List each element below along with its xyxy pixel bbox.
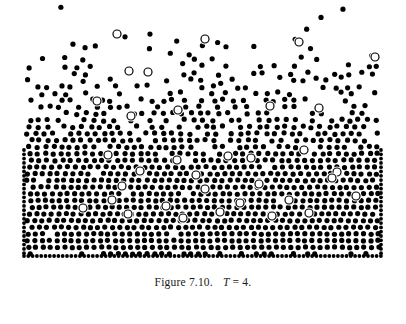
- fluid-particle: [266, 232, 271, 237]
- fluid-particle: [323, 191, 328, 196]
- fluid-particle: [194, 138, 199, 143]
- fluid-particle: [76, 178, 81, 183]
- fluid-particle: [104, 164, 109, 169]
- fluid-particle: [107, 211, 112, 216]
- fluid-particle: [358, 145, 363, 150]
- fluid-particle: [278, 225, 283, 230]
- fluid-particle: [251, 44, 256, 49]
- fluid-particle: [186, 245, 191, 250]
- wall-particle: [345, 254, 349, 258]
- wall-particle: [22, 161, 26, 165]
- fluid-particle: [176, 191, 181, 196]
- fluid-particle: [76, 185, 81, 190]
- fluid-particle: [193, 231, 198, 236]
- fluid-particle: [266, 118, 271, 123]
- fluid-particle: [279, 191, 284, 196]
- fluid-particle: [249, 225, 254, 230]
- fluid-particle: [318, 144, 323, 149]
- fluid-particle: [373, 225, 378, 230]
- fluid-particle: [211, 83, 216, 88]
- fluid-particle: [120, 238, 125, 243]
- fluid-particle: [36, 117, 41, 122]
- fluid-particle: [164, 231, 169, 236]
- fluid-particle: [357, 164, 362, 169]
- fluid-particle: [347, 119, 352, 124]
- fluid-particle: [161, 99, 166, 104]
- fluid-particle: [223, 44, 228, 49]
- fluid-particle: [317, 124, 322, 129]
- fluid-particle: [347, 245, 352, 250]
- fluid-particle: [240, 151, 245, 156]
- fluid-particle: [136, 212, 141, 217]
- fluid-particle: [106, 244, 111, 249]
- fluid-particle: [45, 125, 50, 130]
- tracer-particle: [179, 214, 187, 222]
- wall-particle: [379, 204, 383, 208]
- fluid-particle: [273, 231, 278, 236]
- wall-particle: [336, 254, 340, 258]
- fluid-particle: [226, 204, 231, 209]
- fluid-particle: [70, 171, 75, 176]
- fluid-particle: [94, 191, 99, 196]
- fluid-particle: [128, 184, 133, 189]
- fluid-particle: [67, 84, 72, 89]
- fluid-particle: [229, 218, 234, 223]
- fluid-particle: [25, 238, 30, 243]
- fluid-particle: [294, 138, 299, 143]
- wall-particle: [280, 254, 284, 258]
- fluid-particle: [278, 204, 283, 209]
- fluid-particle: [117, 225, 122, 230]
- fluid-particle: [146, 225, 151, 230]
- fluid-particle: [362, 103, 367, 108]
- fluid-particle: [220, 144, 225, 149]
- fluid-particle: [84, 231, 89, 236]
- fluid-particle: [308, 46, 313, 51]
- fluid-particle: [51, 152, 56, 157]
- fluid-particle: [374, 118, 379, 123]
- fluid-particle: [83, 184, 88, 189]
- fluid-particle: [329, 118, 334, 123]
- fluid-particle: [357, 131, 362, 136]
- fluid-particle: [82, 144, 87, 149]
- fluid-particle: [317, 231, 322, 236]
- fluid-particle: [45, 117, 50, 122]
- fluid-particle: [144, 251, 149, 256]
- fluid-particle: [322, 185, 327, 190]
- fluid-particle: [212, 198, 217, 203]
- fluid-particle: [139, 111, 144, 116]
- fluid-particle: [212, 144, 217, 149]
- fluid-particle: [283, 171, 288, 176]
- fluid-particle: [88, 64, 93, 69]
- fluid-particle: [182, 198, 187, 203]
- fluid-particle: [52, 224, 57, 229]
- fluid-particle: [253, 171, 258, 176]
- fluid-particle: [54, 138, 59, 143]
- fluid-particle: [361, 191, 366, 196]
- fluid-particle: [33, 231, 38, 236]
- fluid-particle: [324, 231, 329, 236]
- fluid-particle: [187, 52, 192, 57]
- fluid-particle: [236, 238, 241, 243]
- fluid-particle: [27, 164, 32, 169]
- caption-label: Figure 7.10.: [155, 276, 213, 288]
- fluid-particle: [139, 192, 144, 197]
- wall-particle: [39, 254, 43, 258]
- fluid-particle: [352, 152, 357, 157]
- fluid-particle: [89, 124, 94, 129]
- fluid-particle: [307, 185, 312, 190]
- tracer-particle: [192, 171, 200, 179]
- fluid-particle: [295, 191, 300, 196]
- fluid-particle: [167, 251, 172, 256]
- fluid-particle: [295, 238, 300, 243]
- fluid-particle: [273, 178, 278, 183]
- fluid-particle: [228, 177, 233, 182]
- fluid-particle: [75, 145, 80, 150]
- fluid-particle: [348, 251, 353, 256]
- fluid-particle: [66, 225, 71, 230]
- fluid-particle: [221, 191, 226, 196]
- fluid-particle: [222, 231, 227, 236]
- fluid-particle: [240, 158, 245, 163]
- fluid-particle: [138, 96, 143, 101]
- fluid-particle: [241, 98, 246, 103]
- fluid-particle: [227, 225, 232, 230]
